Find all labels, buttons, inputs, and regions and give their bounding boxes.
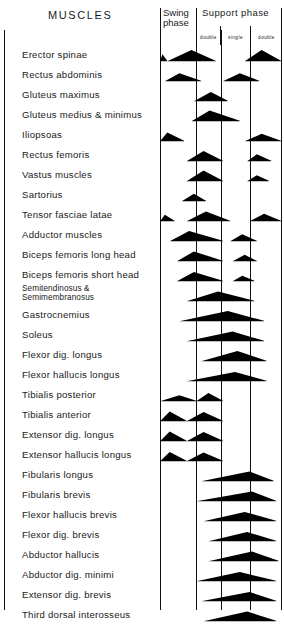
table-row: Fibularis longus [0,467,284,487]
activity-burst [204,611,277,621]
activity-burst [196,491,276,501]
activity-burst-graphic [160,307,281,327]
activity-burst-graphic [160,547,281,567]
phase-header-swing: Swing phase [160,8,196,45]
activity-burst [187,151,223,161]
muscle-name-label: Rectus femoris [22,150,89,160]
activity-burst [160,132,184,141]
activity-burst-graphic [160,127,281,147]
table-row: Tibialis anterior [0,407,284,427]
muscle-name-label: Flexor hallucis longus [22,370,120,380]
muscle-name-label: Flexor hallucis brevis [22,510,117,520]
activity-burst-graphic [160,347,281,367]
activity-burst [201,471,274,481]
activity-burst-graphic [160,147,281,167]
table-row: Rectus abdominis [0,67,284,87]
muscle-name-label: Fibularis longus [22,470,93,480]
activity-burst [187,170,223,181]
activity-timing-cell [160,427,282,447]
activity-burst-graphic [160,267,281,287]
activity-burst-graphic [160,467,281,487]
table-row: Extensor dig. longus [0,427,284,447]
table-row: Tibialis posterior [0,387,284,407]
activity-burst [170,231,223,241]
activity-burst-graphic [160,507,281,527]
table-row: Flexor hallucis longus [0,367,284,387]
activity-timing-cell [160,447,282,467]
table-row: Flexor hallucis brevis [0,507,284,527]
muscle-name-label: Gluteus medius & minimus [22,110,142,120]
rows-area: Erector spinaeRectus abdominisGluteus ma… [0,45,284,610]
activity-burst [160,411,187,421]
table-row: Biceps femoris long head [0,247,284,267]
subphase-double-first: double [196,26,221,45]
activity-timing-cell [160,487,282,507]
muscle-name-label: Vastus muscles [22,170,92,180]
activity-burst-graphic [160,527,281,547]
activity-burst-graphic [160,387,281,407]
muscle-name-label: Abductor dig. minimi [22,570,114,580]
activity-timing-cell [160,527,282,547]
activity-burst [194,92,228,101]
subphase-single: single [221,26,250,45]
activity-timing-cell [160,207,282,227]
table-row: Soleus [0,327,284,347]
activity-burst [208,551,278,561]
activity-burst [233,255,257,261]
activity-burst-graphic [160,287,281,307]
activity-burst-graphic [160,67,281,87]
activity-burst-graphic [160,247,281,267]
activity-timing-cell [160,547,282,567]
muscle-name-label: Extensor hallucis longus [22,450,131,460]
activity-timing-cell [160,267,282,287]
activity-burst [196,393,223,401]
activity-timing-cell [160,187,282,207]
muscle-name-label: Extensor dig. brevis [22,590,111,600]
muscle-name-label: Adductor muscles [22,230,102,240]
activity-burst [165,73,201,81]
activity-burst [223,73,259,81]
activity-timing-cell [160,67,282,87]
table-row: Gluteus maximus [0,87,284,107]
table-row: Flexor dig. brevis [0,527,284,547]
muscle-name-label: Flexor dig. brevis [22,530,100,540]
activity-timing-cell [160,607,282,626]
activity-burst-graphic [160,367,281,387]
activity-timing-cell [160,347,282,367]
activity-timing-cell [160,387,282,407]
activity-timing-cell [160,567,282,587]
muscle-name-label: Semitendinosus & Semimembranosus [22,285,94,302]
activity-burst-graphic [160,447,281,467]
activity-timing-cell [160,47,282,67]
activity-burst-graphic [160,107,281,127]
subphase-double-second: double [250,26,282,45]
activity-burst [187,291,255,301]
activity-burst-graphic [160,587,281,607]
activity-burst-graphic [160,487,281,507]
muscle-name-label: Extensor dig. longus [22,430,114,440]
phase-header-swing-label: Swing phase [163,8,189,27]
muscle-name-label: Tibialis anterior [22,410,91,420]
muscle-name-label: Third dorsal interosseus [22,610,130,620]
activity-burst [177,272,223,281]
activity-timing-cell [160,247,282,267]
muscle-name-label: Tensor fasciae latae [22,210,112,220]
activity-burst [187,372,267,381]
table-row: Extensor dig. brevis [0,587,284,607]
activity-burst [187,331,264,341]
muscle-name-label: Gastrocnemius [22,310,90,320]
page-title: MUSCLES [48,9,112,21]
table-row: Erector spinae [0,47,284,67]
table-row: Semitendinosus & Semimembranosus [0,287,284,307]
muscle-name-label: Biceps femoris long head [22,250,136,260]
activity-timing-cell [160,507,282,527]
activity-burst-graphic [160,607,281,626]
muscle-name-label: Fibularis brevis [22,490,91,500]
table-row: Iliopsoas [0,127,284,147]
activity-burst [160,54,167,61]
table-row: Tensor fasciae latae [0,207,284,227]
activity-burst-graphic [160,187,281,207]
activity-burst [245,50,281,61]
muscle-name-label: Sartorius [22,190,63,200]
activity-burst [250,214,281,221]
